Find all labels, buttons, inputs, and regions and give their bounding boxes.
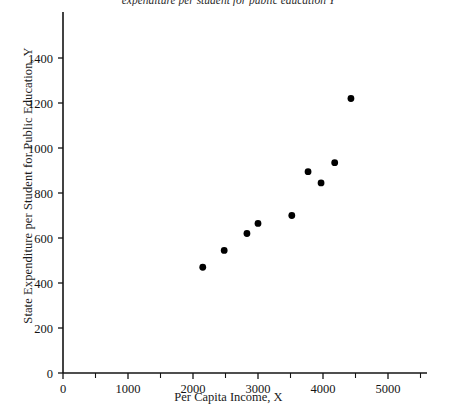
x-tick-group: 010002000300040005000	[60, 373, 421, 396]
x-tick-label: 0	[60, 382, 66, 396]
plot-area: 0200400600800100012001400 01000200030004…	[0, 0, 457, 412]
y-tick-label: 1000	[28, 142, 53, 156]
data-point	[255, 220, 262, 227]
scatter-plot-figure: expenditure per student for public educa…	[0, 0, 457, 412]
x-tick-label: 2000	[181, 382, 206, 396]
data-point	[348, 95, 355, 102]
y-tick-label: 800	[34, 187, 53, 201]
data-point-group	[199, 95, 354, 271]
y-tick-label: 1400	[28, 52, 53, 66]
data-point	[288, 212, 295, 219]
data-point	[244, 230, 251, 237]
y-tick-label: 600	[34, 232, 53, 246]
y-tick-group: 0200400600800100012001400	[28, 52, 63, 381]
data-point	[331, 159, 338, 166]
data-point	[221, 247, 228, 254]
y-tick-label: 200	[34, 322, 53, 336]
data-point	[199, 264, 206, 271]
data-point	[318, 179, 325, 186]
y-tick-label: 1200	[28, 97, 53, 111]
x-tick-label: 5000	[376, 382, 401, 396]
y-tick-label: 400	[34, 277, 53, 291]
axes	[63, 12, 427, 373]
x-tick-label: 3000	[246, 382, 271, 396]
x-tick-label: 4000	[311, 382, 336, 396]
y-tick-label: 0	[47, 367, 53, 381]
x-tick-label: 1000	[116, 382, 141, 396]
data-point	[305, 168, 312, 175]
